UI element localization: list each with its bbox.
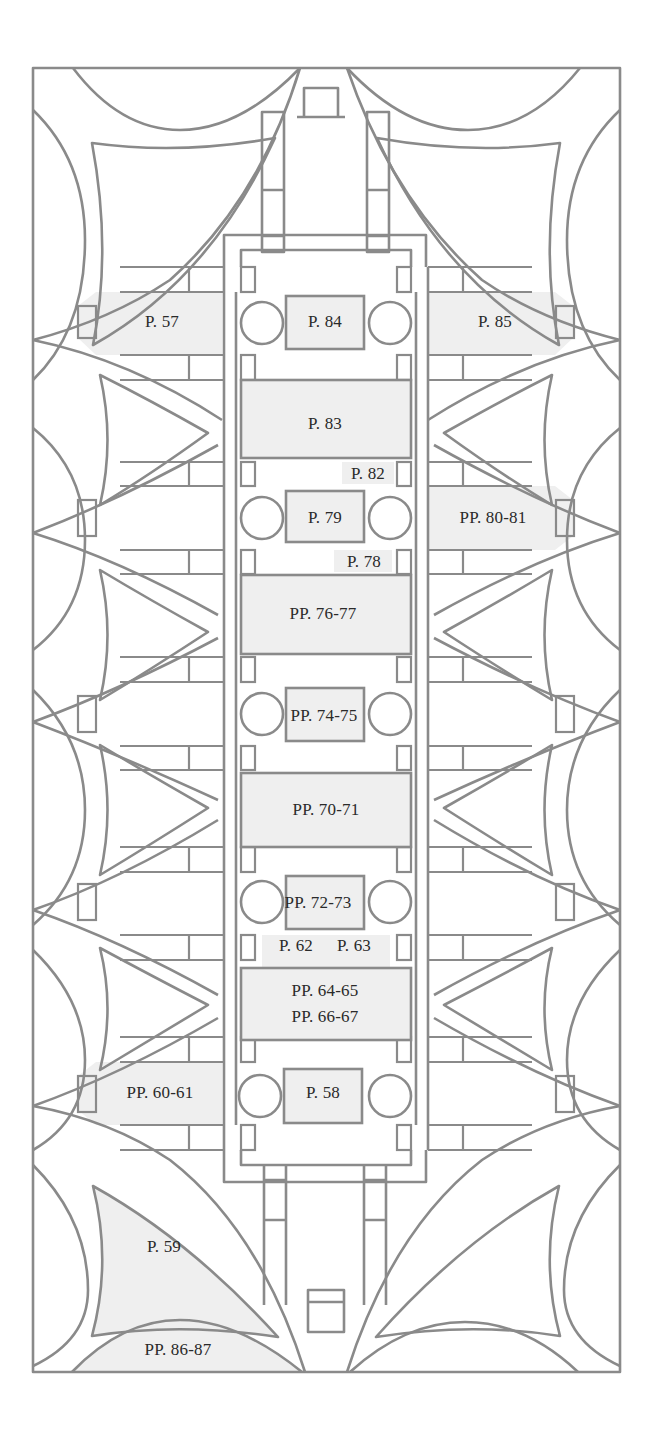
- label-p78: P. 78: [347, 552, 381, 572]
- label-pp76-77: PP. 76-77: [290, 604, 357, 624]
- label-p58: P. 58: [306, 1083, 340, 1103]
- label-p84: P. 84: [308, 312, 342, 332]
- label-p63: P. 63: [337, 936, 371, 956]
- label-pp74-75: PP. 74-75: [291, 706, 358, 726]
- label-p82: P. 82: [351, 464, 385, 484]
- label-pp70-71: PP. 70-71: [293, 800, 360, 820]
- label-p79: P. 79: [308, 508, 342, 528]
- label-p57: P. 57: [145, 312, 179, 332]
- label-p85: P. 85: [478, 312, 512, 332]
- label-pp60-61: PP. 60-61: [127, 1083, 194, 1103]
- label-p59: P. 59: [147, 1237, 181, 1257]
- label-pp64-65: PP. 64-65: [292, 981, 359, 1001]
- label-pp80-81: PP. 80-81: [460, 508, 527, 528]
- side-lenses-left: [33, 375, 218, 1106]
- label-p62: P. 62: [279, 936, 313, 956]
- label-pp86-87: PP. 86-87: [145, 1340, 212, 1360]
- label-pp66-67: PP. 66-67: [292, 1007, 359, 1027]
- label-p83: P. 83: [308, 414, 342, 434]
- label-pp72-73: PP. 72-73: [285, 893, 352, 913]
